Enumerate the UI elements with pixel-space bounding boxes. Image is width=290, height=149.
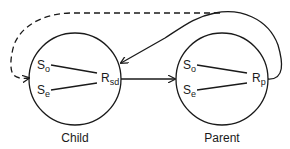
child-caption: Child	[61, 131, 88, 145]
parent-to-child-feedback-arrow	[121, 12, 282, 79]
child-so-label: So	[37, 58, 50, 74]
parent-se-label: Se	[183, 83, 196, 99]
child-so-to-rsd-line	[51, 65, 97, 73]
parent-so-to-rp-line	[197, 65, 247, 73]
parent-rp-label: Rp	[252, 71, 266, 87]
diagram-canvas: So Se Rsd So Se Rp Child Parent	[0, 0, 290, 149]
parent-caption: Parent	[204, 131, 240, 145]
child-se-to-rsd-line	[51, 83, 97, 90]
parent-so-label: So	[183, 58, 196, 74]
child-se-label: Se	[37, 83, 50, 99]
parent-se-to-rp-line	[197, 83, 247, 90]
child-rsd-label: Rsd	[101, 71, 119, 87]
